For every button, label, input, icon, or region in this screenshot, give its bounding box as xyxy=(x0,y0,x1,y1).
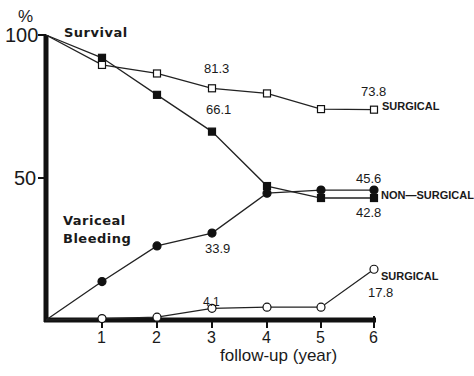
annotation-4-1: 4.1 xyxy=(203,295,220,309)
data-point-marker xyxy=(208,229,216,237)
data-point-marker xyxy=(317,186,325,194)
data-point-marker xyxy=(370,186,378,194)
x-tick-label-3: 3 xyxy=(207,329,216,346)
data-point-marker xyxy=(371,106,378,113)
data-point-marker xyxy=(98,278,106,286)
data-point-marker xyxy=(317,303,325,311)
series-label-surgical-survival: SURGICAL xyxy=(382,100,440,112)
group-label-variceal: Variceal xyxy=(63,213,126,228)
annotation-73-8: 73.8 xyxy=(361,84,386,99)
data-point-marker xyxy=(154,70,161,77)
annotation-33-9: 33.9 xyxy=(205,241,230,256)
group-label-bleeding: Bleeding xyxy=(63,231,131,246)
x-tick-label-1: 1 xyxy=(97,329,106,346)
data-point-marker xyxy=(98,315,106,323)
data-point-marker xyxy=(153,313,161,321)
x-tick-label-2: 2 xyxy=(152,329,161,346)
group-label-survival: Survival xyxy=(64,25,128,40)
data-point-marker xyxy=(209,128,216,135)
annotation-42-8: 42.8 xyxy=(356,205,381,220)
data-point-marker xyxy=(99,54,106,61)
series-label-non-surgical: NON—SURGICAL xyxy=(381,189,474,201)
data-point-marker xyxy=(264,90,271,97)
chart-figure: % 100 50 1 2 3 4 5 6 follow-up (year) Su… xyxy=(0,0,474,376)
x-tick-label-4: 4 xyxy=(262,329,271,346)
data-point-marker xyxy=(371,195,378,202)
data-point-marker xyxy=(263,189,271,197)
data-point-marker xyxy=(318,106,325,113)
x-tick-label-5: 5 xyxy=(316,329,325,346)
y-tick-label-100: 100 xyxy=(5,24,38,46)
data-point-marker xyxy=(370,265,378,273)
data-point-marker xyxy=(318,195,325,202)
data-point-marker xyxy=(153,242,161,250)
data-point-marker xyxy=(209,85,216,92)
annotation-66-1: 66.1 xyxy=(206,102,231,117)
data-point-marker xyxy=(154,91,161,98)
annotation-45-6: 45.6 xyxy=(356,171,381,186)
series-label-surgical-bleeding: SURGICAL xyxy=(381,270,439,282)
annotation-81-3: 81.3 xyxy=(204,61,229,76)
annotation-17-8: 17.8 xyxy=(368,285,393,300)
data-point-marker xyxy=(263,303,271,311)
y-tick-label-50: 50 xyxy=(14,167,36,189)
x-axis-title: follow-up (year) xyxy=(220,346,337,365)
data-point-marker xyxy=(99,61,106,68)
x-tick-label-6: 6 xyxy=(369,329,378,346)
series-layer xyxy=(46,35,378,323)
data-point-marker xyxy=(264,183,271,190)
